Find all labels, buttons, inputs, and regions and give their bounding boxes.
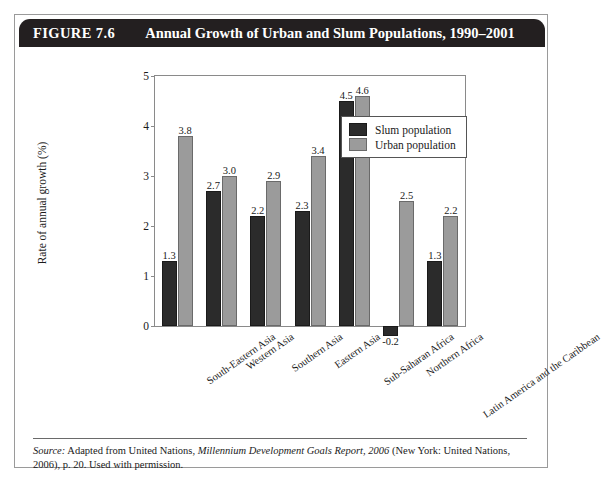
y-tick-mark <box>151 276 155 277</box>
figure-title: Annual Growth of Urban and Slum Populati… <box>145 25 515 42</box>
legend-label: Slum population <box>375 124 451 136</box>
bar-urban: 2.9 <box>266 181 281 326</box>
y-tick-mark <box>151 176 155 177</box>
bar-value-label: 2.2 <box>251 205 264 216</box>
source-text-before: Adapted from United Nations, <box>65 445 197 456</box>
bar-slum: 2.7 <box>206 191 221 326</box>
legend-item: Urban population <box>349 138 456 151</box>
chart-area: Rate of annual growth (%) 012345 1.33.82… <box>15 47 547 435</box>
y-tick-mark <box>151 226 155 227</box>
y-tick-mark <box>151 326 155 327</box>
plot-inner: 012345 1.33.82.73.02.22.92.33.44.54.6-0.… <box>155 76 465 326</box>
legend-swatch-urban <box>349 138 367 151</box>
bar-urban: 3.8 <box>178 136 193 326</box>
bar-value-label: 2.7 <box>207 180 220 191</box>
bar-urban: 2.2 <box>443 216 458 326</box>
bar-value-label: 4.5 <box>340 90 353 101</box>
plot-frame: 012345 1.33.82.73.02.22.92.33.44.54.6-0.… <box>154 75 466 327</box>
y-tick-mark <box>151 76 155 77</box>
bar-urban: 3.0 <box>222 176 237 326</box>
bar-group: 1.33.8 <box>162 76 193 326</box>
y-axis-title: Rate of annual growth (%) <box>36 118 48 288</box>
source-note: Source: Adapted from United Nations, Mil… <box>33 444 531 472</box>
bar-urban: 3.4 <box>311 156 326 326</box>
bar-value-label: 3.8 <box>179 125 192 136</box>
figure-container: FIGURE 7.6 Annual Growth of Urban and Sl… <box>14 14 548 468</box>
bar-value-label: 3.0 <box>223 165 236 176</box>
bar-value-label: 2.9 <box>267 170 280 181</box>
bar-slum: 2.2 <box>250 216 265 326</box>
bar-group: 2.22.9 <box>250 76 281 326</box>
y-tick-mark <box>151 126 155 127</box>
bar-value-label: 2.5 <box>400 190 413 201</box>
figure-number: FIGURE 7.6 <box>33 25 115 42</box>
footer-divider <box>33 438 527 439</box>
legend-swatch-slum <box>349 123 367 136</box>
bar-value-label: -0.2 <box>382 336 399 347</box>
bar-group: 1.32.2 <box>427 76 458 326</box>
bar-slum: 1.3 <box>162 261 177 326</box>
bar-value-label: 3.4 <box>311 145 324 156</box>
bar-group: 4.54.6 <box>339 76 370 326</box>
bar-group: -0.22.5 <box>383 76 414 326</box>
x-axis-label: Latin America and the Caribbean <box>481 331 601 420</box>
bar-urban: 2.5 <box>399 201 414 326</box>
source-label: Source: <box>33 445 65 456</box>
bar-group: 2.33.4 <box>295 76 326 326</box>
chart-legend: Slum populationUrban population <box>341 116 467 158</box>
legend-item: Slum population <box>349 123 456 136</box>
bar-slum: -0.2 <box>383 326 398 336</box>
bar-value-label: 4.6 <box>356 85 369 96</box>
source-publication-title: Millennium Development Goals Report, 200… <box>198 445 390 456</box>
bar-slum: 1.3 <box>427 261 442 326</box>
bar-value-label: 2.3 <box>295 200 308 211</box>
bar-value-label: 1.3 <box>428 250 441 261</box>
bar-value-label: 2.2 <box>444 205 457 216</box>
figure-header-banner: FIGURE 7.6 Annual Growth of Urban and Sl… <box>19 19 545 47</box>
legend-label: Urban population <box>375 139 456 151</box>
bar-slum: 2.3 <box>295 211 310 326</box>
bar-value-label: 1.3 <box>163 250 176 261</box>
bar-group: 2.73.0 <box>206 76 237 326</box>
